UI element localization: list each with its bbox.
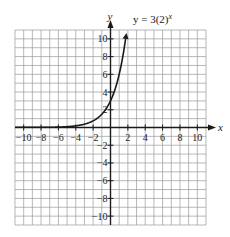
y-axis-label: y xyxy=(107,10,113,22)
y-tick-label: 6 xyxy=(103,69,108,80)
x-tick-label: 6 xyxy=(160,132,165,143)
x-tick-label: −10 xyxy=(16,132,32,143)
y-tick-label: 4 xyxy=(103,87,108,98)
axes xyxy=(15,20,216,225)
exponential-graph: −10−8−6−4−2246810 108642−2−4−6−8−10 x y … xyxy=(0,0,230,237)
x-tick-label: 4 xyxy=(143,132,148,143)
x-tick-label: 10 xyxy=(192,132,202,143)
y-tick-label: −8 xyxy=(97,193,108,204)
y-tick-label: −6 xyxy=(97,175,108,186)
x-tick-label: 8 xyxy=(177,132,182,143)
y-tick-label: −2 xyxy=(97,140,108,151)
x-tick-label: −8 xyxy=(36,132,47,143)
equation-exponent: x xyxy=(168,12,173,21)
equation-label: y = 3(2)x xyxy=(133,12,173,26)
equation-prefix: y = 3(2) xyxy=(133,13,169,26)
y-tick-label: −4 xyxy=(97,157,108,168)
x-axis-label: x xyxy=(217,121,223,133)
x-tick-label: −4 xyxy=(70,132,81,143)
y-tick-label: 8 xyxy=(103,51,108,62)
y-tick-label: 10 xyxy=(98,33,108,44)
x-tick-labels: −10−8−6−4−2246810 xyxy=(16,132,202,143)
x-tick-label: −6 xyxy=(53,132,64,143)
x-axis-arrow-icon xyxy=(208,125,216,131)
y-tick-label: −10 xyxy=(92,211,108,222)
x-tick-label: 2 xyxy=(125,132,130,143)
